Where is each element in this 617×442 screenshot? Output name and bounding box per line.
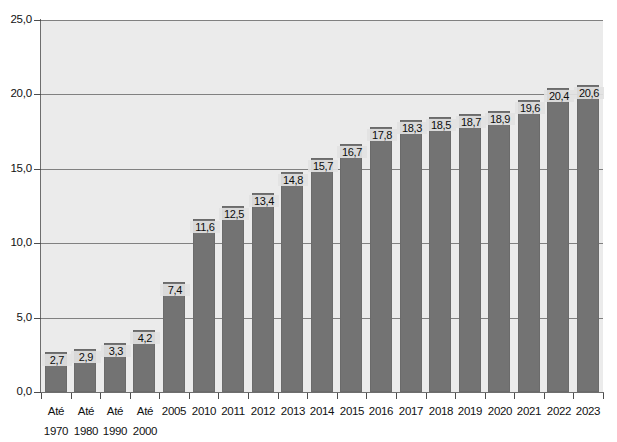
x-category-label-line1: 2010 <box>192 405 216 417</box>
x-tick-mark <box>455 393 456 399</box>
bar-value-label: 16,7 <box>337 146 367 158</box>
bar-value-label: 20,6 <box>574 87 604 99</box>
x-tick-mark <box>71 393 72 399</box>
gridline-20-0 <box>41 94 603 95</box>
x-tick-mark <box>100 393 101 399</box>
x-category-label-line1: 2022 <box>547 405 571 417</box>
bar-chart: 0,05,010,015,020,025,0 2,72,93,34,27,411… <box>0 0 617 442</box>
x-category-label-line1: Até <box>137 405 153 417</box>
x-tick-mark <box>366 393 367 399</box>
x-category-label-line2: 2000 <box>126 424 164 438</box>
bar-value-label: 19,6 <box>515 102 545 114</box>
bar-value-label: 12,5 <box>219 208 249 220</box>
x-tick-mark <box>189 393 190 399</box>
y-tick-mark <box>34 243 41 244</box>
gridline-25-0 <box>41 20 603 21</box>
x-tick-mark <box>603 393 604 399</box>
bar-value-label: 18,5 <box>426 119 456 131</box>
bar <box>281 172 303 392</box>
bar-value-label: 4,2 <box>130 332 160 344</box>
x-tick-mark <box>573 393 574 399</box>
x-tick-mark <box>41 393 42 399</box>
bar <box>429 117 451 392</box>
x-category-label-line1: 2023 <box>576 405 600 417</box>
x-tick-mark <box>426 393 427 399</box>
y-tick-label: 20,0 <box>10 87 32 99</box>
x-tick-mark <box>544 393 545 399</box>
bar-value-label: 3,3 <box>101 345 131 357</box>
x-tick-mark <box>514 393 515 399</box>
bar <box>370 127 392 392</box>
x-tick-mark <box>130 393 131 399</box>
x-tick-mark <box>485 393 486 399</box>
x-category-label-line1: 2011 <box>221 405 245 417</box>
bar <box>311 158 333 392</box>
bar <box>488 111 510 392</box>
bar-value-label: 18,9 <box>485 113 515 125</box>
bar-value-label: 20,4 <box>544 90 574 102</box>
bar <box>163 282 185 392</box>
x-category-label-line1: Até <box>107 405 123 417</box>
x-category-label-line1: Até <box>78 405 94 417</box>
x-tick-mark <box>278 393 279 399</box>
y-tick-mark <box>34 20 41 21</box>
bar-value-label: 2,9 <box>71 351 101 363</box>
y-tick-label: 10,0 <box>10 236 32 248</box>
x-tick-mark <box>218 393 219 399</box>
x-category-label-line1: 2005 <box>162 405 186 417</box>
x-category-label-line1: 2017 <box>399 405 423 417</box>
y-tick-mark <box>34 318 41 319</box>
bar <box>193 219 215 392</box>
bar-value-label: 11,6 <box>190 221 220 233</box>
bar <box>252 193 274 392</box>
x-tick-mark <box>307 393 308 399</box>
y-tick-label: 0,0 <box>17 385 32 397</box>
y-tick-mark <box>34 169 41 170</box>
bar <box>547 88 569 392</box>
x-category-label-line1: 2012 <box>251 405 275 417</box>
y-tick-label: 5,0 <box>17 311 32 323</box>
bar-value-label: 15,7 <box>308 160 338 172</box>
x-category-label-line1: Até <box>48 405 64 417</box>
x-category-label-line1: 2013 <box>281 405 305 417</box>
x-category-label-line1: 2015 <box>340 405 364 417</box>
x-tick-mark <box>396 393 397 399</box>
x-category-label-line1: 2016 <box>369 405 393 417</box>
bar-value-label: 7,4 <box>160 284 190 296</box>
x-category-label: 2023 <box>569 404 607 418</box>
x-category-label-line1: 2014 <box>310 405 334 417</box>
bar-value-label: 18,7 <box>456 116 486 128</box>
bar <box>340 144 362 392</box>
x-tick-mark <box>337 393 338 399</box>
x-category-label-line1: 2021 <box>517 405 541 417</box>
bar <box>518 100 540 392</box>
bar <box>400 120 422 392</box>
bar <box>577 85 599 392</box>
y-tick-label: 15,0 <box>10 162 32 174</box>
y-tick-label: 25,0 <box>10 13 32 25</box>
y-tick-mark <box>34 94 41 95</box>
bar-value-label: 17,8 <box>367 129 397 141</box>
x-category-label-line1: 2020 <box>488 405 512 417</box>
bar <box>222 206 244 392</box>
x-tick-mark <box>159 393 160 399</box>
bar-value-label: 13,4 <box>249 195 279 207</box>
bar-value-label: 14,8 <box>278 174 308 186</box>
x-category-label-line1: 2019 <box>458 405 482 417</box>
bar-value-label: 18,3 <box>397 122 427 134</box>
y-tick-mark <box>34 392 41 393</box>
bar-value-label: 2,7 <box>42 354 72 366</box>
x-category-label-line1: 2018 <box>429 405 453 417</box>
x-axis-line <box>40 392 604 393</box>
x-tick-mark <box>248 393 249 399</box>
bar <box>459 114 481 392</box>
y-axis-line <box>40 19 41 393</box>
